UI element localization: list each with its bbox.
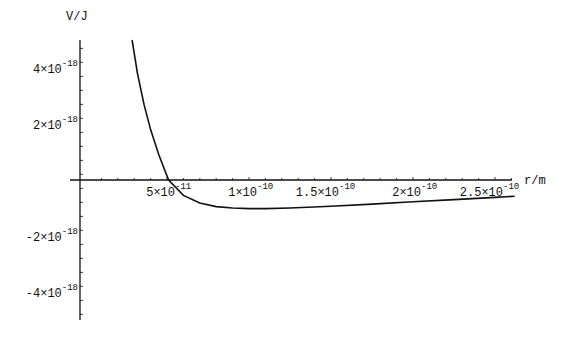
x-tick-label: 5×10-11 [146,182,191,200]
ticks: 5×10-111×10-101.5×10-102×10-102.5×10-104… [26,48,519,314]
x-tick-label: 1×10-10 [228,182,273,200]
potential-energy-chart: 5×10-111×10-101.5×10-102×10-102.5×10-104… [0,0,570,342]
x-tick-label: 1.5×10-10 [296,182,355,200]
y-tick-label: -2×10-18 [26,227,78,245]
y-axis-label: V/J [66,10,88,24]
y-tick-label: 4×10-18 [33,59,78,77]
y-tick-label: 2×10-18 [33,115,78,133]
x-axis-label: r/m [524,174,546,188]
y-tick-label: -4×10-18 [26,283,78,301]
x-tick-label: 2×10-10 [392,182,437,200]
